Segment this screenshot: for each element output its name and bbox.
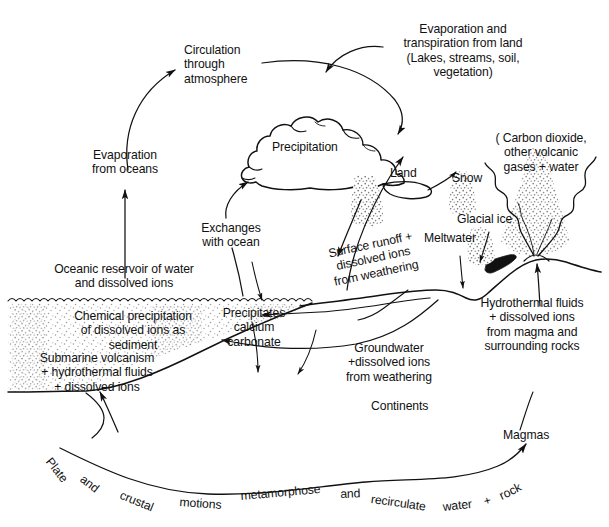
label-precipitates-calcium-carbonate: Precipitatescalciumcarbonate (213, 306, 295, 349)
label-exchanges-with-ocean: Exchangeswith ocean (192, 221, 270, 250)
leader-precipitates (252, 262, 262, 300)
label-meltwater: Meltwater (424, 231, 476, 245)
label-oceanic-reservoir: Oceanic reservoir of waterand dissolved … (34, 262, 214, 291)
label-submarine-volcanism: Submarine volcanism+ hydrothermal fluids… (22, 351, 172, 394)
label-glacial-ice: Glacial ice (457, 212, 512, 226)
rain-shaft (346, 172, 391, 232)
label-carbon-dioxide-volcanic-gases: ( Carbon dioxide,other volcanicgases + w… (478, 131, 604, 174)
label-continents: Continents (371, 399, 428, 413)
arrow-meltwater (460, 256, 463, 288)
label-circulation-through-atmosphere: Circulationthroughatmosphere (184, 43, 247, 86)
arrow-exchanges-to-cloud (226, 182, 248, 218)
label-precipitation: Precipitation (272, 140, 338, 154)
caption-word: water (442, 497, 473, 514)
label-snow: Snow (452, 171, 482, 185)
label-magmas: Magmas (503, 428, 549, 442)
label-chemical-precipitation: Chemical precipitationof dissolved ions … (62, 309, 204, 352)
label-evaporation-transpiration-from-land: Evaporation andtranspiration from land(L… (380, 22, 546, 80)
label-hydrothermal-fluids: Hydrothermal fluids+ dissolved ionsfrom … (470, 296, 594, 354)
label-groundwater: Groundwater+dissolved ionsfrom weatherin… (330, 341, 448, 384)
leader-magmas (520, 392, 533, 430)
caption-word: motions (179, 495, 222, 512)
arrow-exchanges-down (232, 248, 243, 296)
arrow-evap-label-to-cloud (326, 46, 383, 72)
leader-caco3-sediment (298, 330, 316, 374)
ocean-surface-line (8, 299, 312, 302)
water-cycle-diagram: Circulationthroughatmosphere Evaporation… (0, 0, 609, 527)
slab-curve (86, 393, 104, 438)
label-land: Land (390, 166, 417, 180)
caption-word: and (340, 486, 361, 501)
label-evaporation-from-oceans: Evaporationfrom oceans (62, 148, 188, 177)
